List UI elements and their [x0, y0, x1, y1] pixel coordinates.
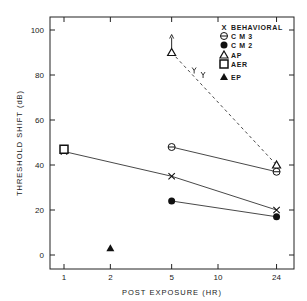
open-triangle-marker	[220, 51, 228, 58]
legend-item: AP	[220, 51, 242, 59]
open-triangle-marker	[273, 161, 281, 168]
threshold-shift-chart: 020406080100 1251024 THRESHOLD SHIFT (dB…	[0, 0, 307, 301]
x-tick-label: 24	[272, 273, 281, 282]
y-marker	[192, 68, 196, 74]
open-triangle-marker	[168, 49, 176, 56]
x-tick-label: 10	[214, 273, 223, 282]
legend-label: AER	[231, 61, 248, 68]
series-ep	[106, 244, 114, 251]
y-tick-label: 20	[35, 206, 44, 215]
open-square-marker	[220, 60, 228, 68]
y-tick-label: 80	[35, 71, 44, 80]
x-tick-label: 5	[169, 273, 174, 282]
series-aer	[60, 145, 68, 153]
filled-circle-marker	[221, 42, 228, 49]
filled-triangle-marker	[106, 244, 114, 251]
x-marker	[168, 173, 174, 179]
open-square-marker	[60, 145, 68, 153]
legend-label: C M 2	[231, 42, 253, 49]
legend-label: AP	[231, 52, 242, 59]
legend-item: AER	[220, 60, 248, 68]
legend-label: BEHAVIORAL	[231, 24, 283, 31]
legend-label: C M 3	[231, 33, 253, 40]
series-cm-3	[168, 144, 280, 176]
legend-item: EP	[220, 73, 242, 81]
y-tick-label: 60	[35, 116, 44, 125]
svg-text:X: X	[221, 23, 226, 32]
y-tick-label: 40	[35, 161, 44, 170]
y-tick-label: 0	[40, 251, 45, 260]
x-tick-label: 2	[108, 273, 113, 282]
legend-item: XBEHAVIORAL	[221, 23, 282, 32]
y-axis: 020406080100	[31, 26, 294, 260]
legend-label: EP	[231, 74, 242, 81]
x-marker	[273, 207, 279, 213]
legend: XBEHAVIORALC M 3C M 2APAEREP	[220, 23, 283, 81]
legend-item: C M 2	[221, 42, 253, 50]
x-tick-label: 1	[62, 273, 67, 282]
filled-triangle-marker	[220, 73, 228, 80]
series-cm-2	[168, 198, 280, 221]
x-axis-label: POST EXPOSURE (HR)	[122, 288, 222, 297]
legend-item: C M 3	[221, 33, 253, 41]
y-axis-label: THRESHOLD SHIFT (dB)	[15, 90, 24, 196]
y-marker	[201, 72, 205, 78]
filled-circle-marker	[273, 213, 280, 220]
y-tick-label: 100	[31, 26, 45, 35]
filled-circle-marker	[168, 198, 175, 205]
